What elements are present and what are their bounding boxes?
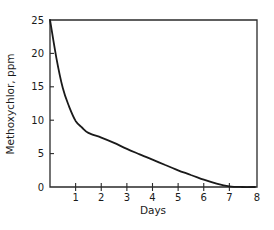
x-tick-label: 4 <box>149 192 155 203</box>
x-tick-label: 6 <box>201 192 207 203</box>
x-tick-label: 7 <box>226 192 232 203</box>
axes-box <box>50 20 257 187</box>
y-tick-label: 15 <box>31 81 44 92</box>
x-tick-label: 8 <box>254 192 260 203</box>
x-tick-label: 1 <box>72 192 78 203</box>
y-tick-label: 5 <box>38 148 44 159</box>
y-axis-label: Methoxychlor, ppm <box>4 53 16 154</box>
y-tick-label: 0 <box>38 182 44 193</box>
x-tick-label: 5 <box>175 192 181 203</box>
methoxychlor-decay-chart: 0510152025 12345678 Days Methoxychlor, p… <box>0 0 274 230</box>
y-tick-label: 10 <box>31 115 44 126</box>
x-tick-label: 2 <box>98 192 104 203</box>
x-tick-label: 3 <box>124 192 130 203</box>
y-tick-label: 25 <box>31 15 44 26</box>
y-tick-label: 20 <box>31 48 44 59</box>
plot-frame <box>50 20 257 187</box>
decay-curve <box>50 20 255 187</box>
x-axis-label: Days <box>140 204 166 216</box>
